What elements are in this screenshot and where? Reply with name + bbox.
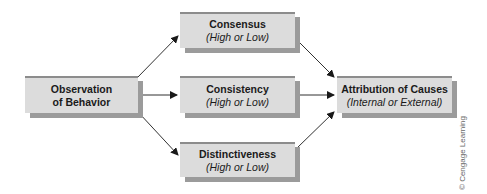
consensus-subtitle: (High or Low) bbox=[206, 31, 269, 44]
arrow-observation-to-distinctiveness bbox=[139, 113, 178, 155]
arrow-observation-to-consensus bbox=[137, 36, 178, 78]
distinctiveness-title: Distinctiveness bbox=[199, 148, 276, 161]
attribution-diagram: Observation of Behavior Consensus (High … bbox=[0, 0, 487, 194]
consensus-node: Consensus (High or Low) bbox=[180, 12, 295, 48]
box-body: Observation of Behavior bbox=[25, 76, 138, 113]
consistency-node: Consistency (High or Low) bbox=[180, 76, 295, 113]
distinctiveness-subtitle: (High or Low) bbox=[206, 161, 269, 174]
consensus-title: Consensus bbox=[209, 18, 266, 31]
copyright-notice: © Cengage Learning bbox=[458, 116, 467, 190]
consistency-title: Consistency bbox=[206, 83, 268, 96]
arrow-distinctiveness-to-attribution bbox=[297, 112, 334, 148]
box-body: Consensus (High or Low) bbox=[180, 12, 295, 48]
distinctiveness-node: Distinctiveness (High or Low) bbox=[180, 142, 295, 177]
box-body: Distinctiveness (High or Low) bbox=[180, 142, 295, 177]
observation-node: Observation of Behavior bbox=[25, 76, 138, 113]
attribution-title: Attribution of Causes bbox=[341, 83, 448, 96]
observation-title-line2: of Behavior bbox=[53, 96, 111, 109]
observation-title-line1: Observation bbox=[51, 83, 112, 96]
box-body: Attribution of Causes (Internal or Exter… bbox=[337, 76, 452, 113]
consistency-subtitle: (High or Low) bbox=[206, 96, 269, 109]
arrow-consensus-to-attribution bbox=[297, 40, 334, 77]
attribution-subtitle: (Internal or External) bbox=[347, 96, 443, 109]
attribution-node: Attribution of Causes (Internal or Exter… bbox=[337, 76, 452, 113]
box-body: Consistency (High or Low) bbox=[180, 76, 295, 113]
